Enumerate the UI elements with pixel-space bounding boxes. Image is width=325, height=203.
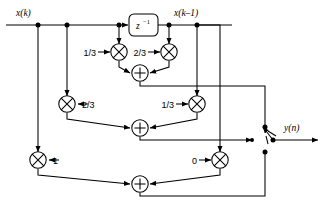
multiplier-1-3-middle <box>189 96 205 112</box>
coefficient-m5-label: 1 <box>53 156 58 166</box>
top-rail-taps <box>38 25 220 152</box>
diagram-canvas: x(k) x(k–1) y(n) z −1 1/3 2/3 2/3 1/3 1 … <box>0 0 325 203</box>
output-signal-label: y(n) <box>283 123 299 134</box>
adder-middle <box>132 120 148 136</box>
adder2-output-path <box>140 137 252 140</box>
multiplier-2-3-top <box>161 44 177 60</box>
adder-top <box>132 65 148 81</box>
signal-flow-diagram: x(k) x(k–1) y(n) z −1 1/3 2/3 2/3 1/3 1 … <box>0 0 325 203</box>
multiplier-1-3-top <box>111 44 127 60</box>
delayed-signal-label: x(k–1) <box>173 8 198 19</box>
input-signal-label: x(k) <box>15 8 31 19</box>
adder3-output-path <box>140 152 265 196</box>
coefficient-m1-label: 1/3 <box>83 48 96 58</box>
coefficient-m2-label: 2/3 <box>133 48 146 58</box>
coefficient-m6-label: 0 <box>192 156 197 166</box>
multiplier-0-bottom <box>212 152 228 168</box>
coefficient-m4-label: 1/3 <box>161 100 174 110</box>
coefficient-m3-label: 2/3 <box>82 100 95 110</box>
multiplier-1-bottom <box>30 152 46 168</box>
adder-bottom <box>132 176 148 192</box>
unit-delay-label: z <box>135 21 140 31</box>
unit-delay-exponent: −1 <box>143 18 150 25</box>
multiplier-2-3-middle <box>59 96 75 112</box>
junction-dots <box>36 23 276 155</box>
